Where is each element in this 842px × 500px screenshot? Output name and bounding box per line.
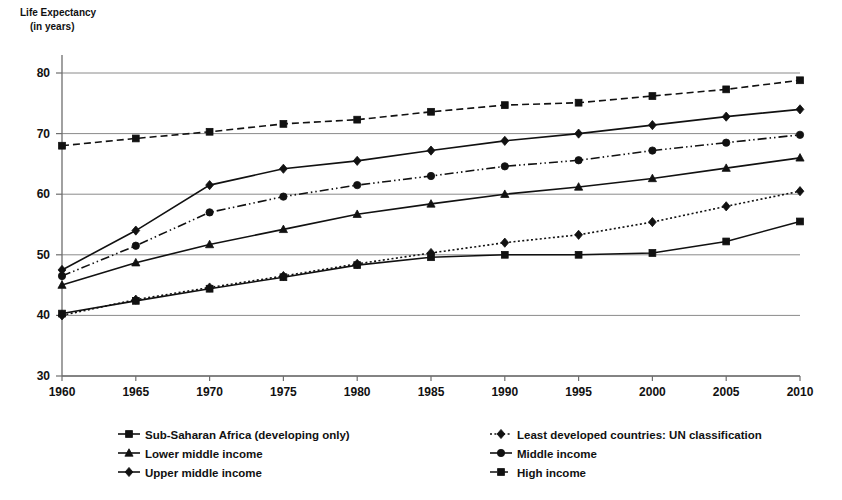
- legend-marker-2: [125, 467, 133, 476]
- data-point-3-1: [132, 242, 139, 249]
- data-point-5-9: [723, 86, 730, 93]
- data-point-0-7: [575, 251, 582, 258]
- axes: [56, 55, 800, 381]
- data-point-3-3: [280, 193, 287, 200]
- data-point-4-1: [132, 226, 140, 235]
- data-point-3-9: [723, 139, 730, 146]
- x-tick-label-1965: 1965: [122, 385, 149, 399]
- data-point-5-7: [575, 99, 582, 106]
- data-point-5-8: [649, 93, 656, 100]
- data-point-4-5: [427, 146, 435, 155]
- data-point-4-2: [206, 181, 214, 190]
- data-point-5-6: [501, 102, 508, 109]
- legend-marker-0: [126, 431, 133, 438]
- legend-label-3: Least developed countries: UN classifica…: [517, 429, 762, 441]
- data-point-1-7: [575, 230, 583, 239]
- legend-item-0[interactable]: Sub-Saharan Africa (developing only): [118, 429, 350, 441]
- legend-item-4[interactable]: Middle income: [490, 448, 597, 460]
- data-point-3-7: [575, 157, 582, 164]
- data-point-4-6: [501, 136, 509, 145]
- data-point-5-1: [132, 135, 139, 142]
- y-tick-label-30: 30: [37, 369, 51, 383]
- y-tick-label-70: 70: [37, 127, 51, 141]
- data-point-1-9: [722, 202, 730, 211]
- series-5: [59, 77, 804, 149]
- x-tick-label-1995: 1995: [565, 385, 592, 399]
- y-tick-label-50: 50: [37, 248, 51, 262]
- legend-label-4: Middle income: [517, 448, 597, 460]
- legend-item-3[interactable]: Least developed countries: UN classifica…: [490, 429, 762, 441]
- series-0: [59, 218, 804, 317]
- legend-item-5[interactable]: High income: [490, 467, 586, 479]
- data-point-5-2: [206, 128, 213, 135]
- data-point-5-5: [428, 108, 435, 115]
- legend-label-5: High income: [517, 467, 586, 479]
- data-point-4-3: [279, 164, 287, 173]
- legend-marker-4: [497, 449, 504, 456]
- x-tick-label-2010: 2010: [787, 385, 814, 399]
- legend-label-2: Upper middle income: [145, 467, 262, 479]
- x-tick-label-1980: 1980: [344, 385, 371, 399]
- gridlines: [62, 73, 800, 376]
- y-tick-label-40: 40: [37, 308, 51, 322]
- data-point-3-2: [206, 209, 213, 216]
- legend-item-1[interactable]: Lower middle income: [118, 448, 263, 460]
- x-tick-label-1985: 1985: [418, 385, 445, 399]
- x-tick-label-1960: 1960: [49, 385, 76, 399]
- y-axis-tick-labels: 304050607080: [37, 66, 51, 383]
- chart-legend: Sub-Saharan Africa (developing only)Lowe…: [118, 429, 762, 479]
- chart-canvas: Life Expectancy (in years) 304050607080 …: [0, 0, 842, 500]
- data-series-group: [58, 77, 804, 320]
- data-point-3-6: [501, 163, 508, 170]
- data-point-1-8: [648, 217, 656, 226]
- data-point-2-10: [796, 154, 804, 161]
- data-point-5-3: [280, 121, 287, 128]
- data-point-3-10: [796, 131, 803, 138]
- legend-label-0: Sub-Saharan Africa (developing only): [145, 429, 350, 441]
- y-tick-label-80: 80: [37, 66, 51, 80]
- y-tick-label-60: 60: [37, 187, 51, 201]
- legend-label-1: Lower middle income: [145, 448, 263, 460]
- data-point-4-7: [575, 129, 583, 138]
- series-line-0: [62, 221, 800, 313]
- data-point-5-0: [59, 142, 66, 149]
- data-point-5-10: [797, 77, 804, 84]
- chart-title: Life Expectancy: [20, 7, 97, 18]
- legend-marker-3: [497, 429, 505, 438]
- data-point-3-8: [649, 147, 656, 154]
- x-tick-label-1975: 1975: [270, 385, 297, 399]
- data-point-4-4: [353, 156, 361, 165]
- x-tick-label-1970: 1970: [196, 385, 223, 399]
- data-point-0-9: [723, 238, 730, 245]
- chart-subtitle: (in years): [30, 21, 74, 32]
- legend-marker-5: [498, 469, 505, 476]
- x-tick-label-2005: 2005: [713, 385, 740, 399]
- x-tick-label-1990: 1990: [491, 385, 518, 399]
- data-point-3-5: [427, 172, 434, 179]
- x-axis-tick-labels: 1960196519701975198019851990199520002005…: [49, 385, 814, 399]
- legend-item-2[interactable]: Upper middle income: [118, 467, 262, 479]
- data-point-4-8: [648, 121, 656, 130]
- data-point-5-4: [354, 116, 361, 123]
- data-point-0-6: [501, 251, 508, 258]
- data-point-1-6: [501, 238, 509, 247]
- data-point-4-10: [796, 105, 804, 114]
- data-point-0-10: [797, 218, 804, 225]
- data-point-3-4: [354, 181, 361, 188]
- x-tick-label-2000: 2000: [639, 385, 666, 399]
- life-expectancy-chart: Life Expectancy (in years) 304050607080 …: [0, 0, 842, 500]
- data-point-0-8: [649, 250, 656, 257]
- data-point-4-9: [722, 112, 730, 121]
- chart-title-group: Life Expectancy (in years): [20, 7, 97, 32]
